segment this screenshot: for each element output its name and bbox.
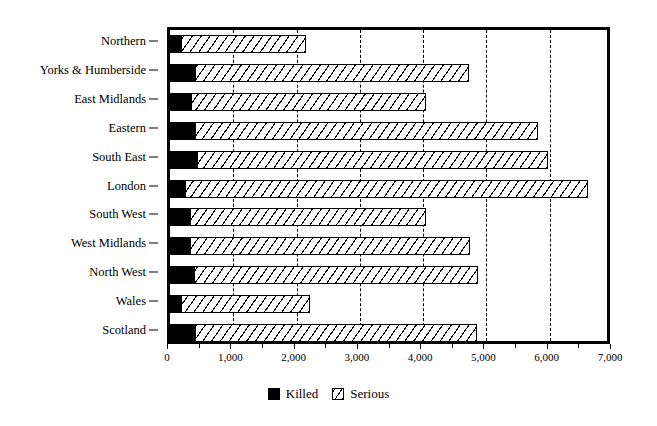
x-axis-label: 1,000 — [218, 351, 243, 363]
x-axis-tick — [547, 344, 548, 349]
y-axis-tick — [149, 300, 158, 301]
bar-segment-killed — [170, 324, 195, 341]
y-axis-label: South West — [89, 208, 146, 221]
solid-black-square-icon — [268, 388, 280, 400]
bar-segment-killed — [170, 295, 181, 313]
bar-segment-serious — [181, 295, 310, 313]
bar-row — [170, 180, 607, 198]
bar-row — [170, 35, 607, 53]
x-axis-minor-tick — [452, 344, 453, 348]
y-axis-tick — [149, 243, 158, 244]
bar-segment-serious — [181, 35, 306, 53]
y-axis-tick — [149, 271, 158, 272]
bar-segment-killed — [170, 122, 195, 140]
bar-segment-killed — [170, 180, 185, 198]
bar-row — [170, 93, 607, 111]
bar-segment-serious — [191, 93, 426, 111]
bar-row — [170, 295, 607, 313]
bar-row — [170, 208, 607, 226]
y-axis-label: North West — [89, 266, 146, 279]
bar-segment-killed — [170, 64, 195, 82]
bar-segment-serious — [195, 122, 538, 140]
y-axis-tick — [149, 70, 158, 71]
chart-container: NorthernYorks & HumbersideEast MidlandsE… — [0, 0, 657, 426]
y-axis-tick — [149, 185, 158, 186]
x-axis-minor-tick — [578, 344, 579, 348]
y-axis-tick — [149, 41, 158, 42]
y-axis-tick — [149, 156, 158, 157]
y-axis-tick — [149, 214, 158, 215]
bar-segment-killed — [170, 208, 190, 226]
bar-row — [170, 151, 607, 169]
bar-segment-killed — [170, 93, 191, 111]
legend-item-serious: Serious — [332, 387, 389, 400]
x-axis-minor-tick — [262, 344, 263, 348]
y-axis-label: Northern — [101, 35, 146, 48]
y-axis-tick — [149, 127, 158, 128]
x-axis-tick — [483, 344, 484, 349]
x-axis-minor-tick — [515, 344, 516, 348]
chart-legend: Killed Serious — [0, 387, 657, 400]
x-axis-label: 4,000 — [408, 351, 433, 363]
bar-segment-serious — [194, 266, 478, 284]
bar-row — [170, 64, 607, 82]
y-axis-tick — [149, 329, 158, 330]
bar-segment-serious — [190, 237, 470, 255]
bar-row — [170, 324, 607, 341]
bar-segment-killed — [170, 35, 181, 53]
y-axis-label: West Midlands — [71, 237, 146, 250]
x-axis-label: 2,000 — [281, 351, 306, 363]
bar-row — [170, 237, 607, 255]
bar-segment-killed — [170, 266, 194, 284]
y-axis-tick — [149, 99, 158, 100]
bar-segment-serious — [197, 151, 549, 169]
hatched-square-icon — [332, 388, 344, 400]
bar-segment-serious — [190, 208, 425, 226]
bar-row — [170, 122, 607, 140]
x-axis-tick — [420, 344, 421, 349]
bar-segment-killed — [170, 151, 197, 169]
x-axis-minor-tick — [325, 344, 326, 348]
y-axis-labels: NorthernYorks & HumbersideEast MidlandsE… — [0, 27, 160, 344]
x-axis-label: 6,000 — [534, 351, 559, 363]
bar-segment-serious — [195, 324, 477, 341]
y-axis-label: Yorks & Humberside — [40, 64, 146, 77]
x-axis-label: 5,000 — [471, 351, 496, 363]
x-axis-label: 3,000 — [344, 351, 369, 363]
y-axis-label: East Midlands — [74, 93, 146, 106]
bar-segment-serious — [185, 180, 587, 198]
plot-area — [167, 27, 610, 344]
plot-inner — [170, 30, 607, 341]
x-axis-tick — [294, 344, 295, 349]
legend-label-serious: Serious — [350, 387, 389, 400]
x-axis-label: 0 — [164, 351, 170, 363]
x-axis-tick — [357, 344, 358, 349]
y-axis-label: Scotland — [102, 323, 146, 336]
bar-row — [170, 266, 607, 284]
y-axis-label: Wales — [116, 295, 146, 308]
x-axis-tick — [610, 344, 611, 349]
legend-label-killed: Killed — [286, 387, 319, 400]
x-axis-minor-tick — [389, 344, 390, 348]
x-axis-tick — [167, 344, 168, 349]
bar-segment-killed — [170, 237, 190, 255]
bar-segment-serious — [195, 64, 469, 82]
x-axis: 01,0002,0003,0004,0005,0006,0007,000 — [167, 344, 610, 374]
legend-item-killed: Killed — [268, 387, 319, 400]
x-axis-label: 7,000 — [598, 351, 623, 363]
y-axis-label: South East — [92, 150, 146, 163]
x-axis-minor-tick — [199, 344, 200, 348]
y-axis-label: London — [107, 179, 146, 192]
y-axis-label: Eastern — [109, 122, 146, 135]
x-axis-tick — [230, 344, 231, 349]
